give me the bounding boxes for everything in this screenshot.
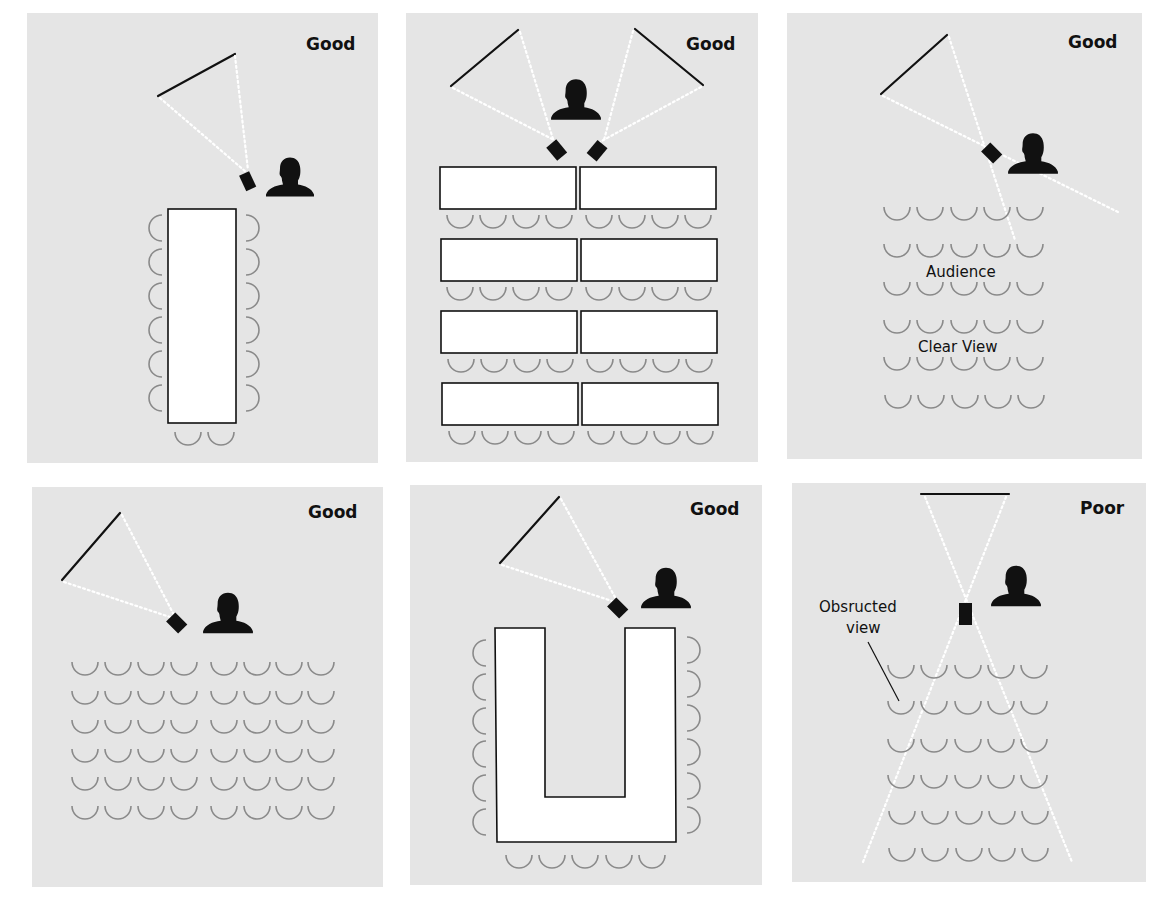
rating-label: Good: [1068, 32, 1117, 52]
classroom-table: [581, 239, 717, 281]
classroom-table: [442, 383, 578, 425]
classroom-table: [441, 239, 577, 281]
classroom-table: [582, 383, 718, 425]
panel-3-theater-corner: Good Audience Clear View: [787, 13, 1142, 459]
projector-icon: [959, 603, 972, 625]
obstructed-view-label-line2: view: [846, 619, 881, 637]
classroom-table: [440, 167, 576, 209]
clear-view-label: Clear View: [918, 338, 998, 356]
audience-label: Audience: [926, 263, 996, 281]
rating-label: Good: [686, 34, 735, 54]
room-layout-diagram: Good Good: [0, 0, 1164, 905]
panel-5-u-shape: Good: [410, 485, 762, 885]
panel-background: [792, 483, 1146, 882]
conference-table: [168, 209, 236, 423]
panel-2-classroom: Good: [406, 13, 758, 462]
panel-background: [787, 13, 1142, 459]
rating-label: Good: [306, 34, 355, 54]
panel-4-theater-wide: Good: [32, 487, 383, 887]
classroom-table: [580, 167, 716, 209]
panel-background: [32, 487, 383, 887]
classroom-table: [441, 311, 577, 353]
panel-6-center-screen-poor: Poor Obsructed view: [792, 483, 1146, 882]
rating-label: Good: [690, 499, 739, 519]
obstructed-view-label-line1: Obsructed: [819, 598, 897, 616]
rating-label: Poor: [1080, 498, 1125, 518]
rating-label: Good: [308, 502, 357, 522]
panel-1-boardroom: Good: [27, 13, 378, 463]
classroom-table: [581, 311, 717, 353]
